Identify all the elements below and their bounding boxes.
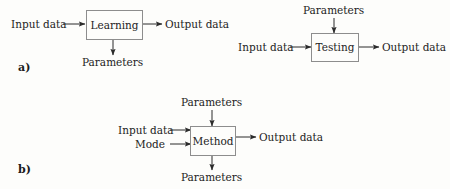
testing-parameters-label: Parameters [303,4,364,16]
method-parameters-top-label: Parameters [181,96,242,108]
learning-input-label: Input data [11,18,66,30]
block-diagram-figure: a) Input data Learning Output data Param… [0,0,450,189]
method-mode-label: Mode [135,138,165,150]
learning-block[interactable]: Learning [86,10,143,40]
learning-parameters-label: Parameters [82,56,143,68]
method-output-label: Output data [259,131,323,143]
testing-block-label: Testing [316,42,355,53]
learning-block-label: Learning [90,20,138,31]
learning-output-label: Output data [165,18,229,30]
method-block[interactable]: Method [190,126,236,156]
testing-output-label: Output data [382,41,446,53]
testing-block[interactable]: Testing [311,33,359,62]
method-block-label: Method [193,136,234,147]
panel-tag-b: b) [18,164,31,176]
method-parameters-bottom-label: Parameters [181,171,242,183]
method-input-label: Input data [118,124,173,136]
testing-input-label: Input data [238,41,293,53]
panel-tag-a: a) [18,62,30,74]
